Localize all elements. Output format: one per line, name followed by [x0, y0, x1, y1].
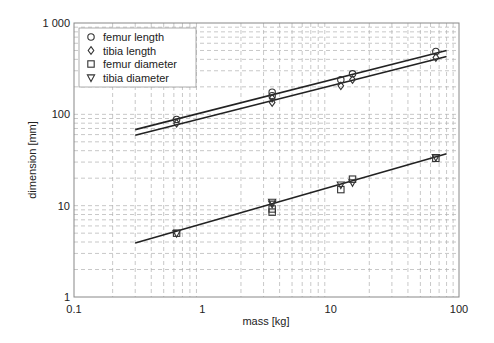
- legend-label: tibia length: [103, 45, 156, 57]
- data-points: [173, 48, 439, 237]
- legend-label: tibia diameter: [103, 72, 169, 84]
- x-tick-label: 0.1: [66, 303, 81, 315]
- y-tick-label: 1 000: [42, 17, 70, 29]
- legend: femur lengthtibia lengthfemur diameterti…: [79, 28, 196, 87]
- x-tick-label: 10: [325, 303, 337, 315]
- chart: 0.11101001101001 000 femur lengthtibia l…: [0, 0, 494, 343]
- legend-label: femur diameter: [103, 58, 177, 70]
- x-tick-label: 100: [450, 303, 468, 315]
- legend-label: femur length: [103, 31, 164, 43]
- fit-line: [135, 154, 446, 243]
- x-tick-label: 1: [199, 303, 205, 315]
- y-tick-label: 10: [58, 200, 70, 212]
- y-tick-label: 100: [52, 108, 70, 120]
- y-tick-label: 1: [64, 291, 70, 303]
- y-axis-label: dimension [mm]: [26, 121, 38, 199]
- x-axis-label: mass [kg]: [242, 315, 289, 327]
